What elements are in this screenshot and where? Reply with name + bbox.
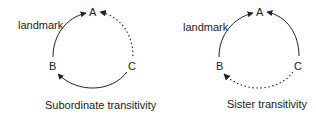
edge-c-to-b	[58, 72, 127, 88]
edge-c-to-a	[267, 12, 299, 56]
diagram-title: Subordinate transitivity	[45, 99, 157, 111]
sister-transitivity-diagram: A B C landmark Sister transitivity	[183, 6, 308, 110]
node-a: A	[256, 6, 264, 18]
landmark-label: landmark	[183, 21, 229, 33]
node-c: C	[128, 60, 136, 72]
node-b: B	[49, 60, 56, 72]
node-b: B	[216, 60, 223, 72]
diagram-title: Sister transitivity	[227, 98, 308, 110]
node-a: A	[89, 6, 97, 18]
edge-c-to-b-dotted	[224, 72, 293, 88]
subordinate-transitivity-diagram: A B C landmark Subordinate transitivity	[18, 6, 157, 111]
edge-b-to-a	[219, 13, 253, 57]
transitivity-diagrams: A B C landmark Subordinate transitivity …	[0, 0, 316, 124]
landmark-label: landmark	[18, 19, 64, 31]
edge-c-to-a-dotted	[100, 12, 133, 56]
node-c: C	[294, 60, 302, 72]
